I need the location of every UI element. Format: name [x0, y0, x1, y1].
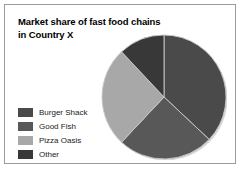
- legend-swatch-pizza-oasis: [18, 136, 33, 145]
- pie-chart-svg: [101, 34, 227, 160]
- legend-item-pizza-oasis[interactable]: Pizza Oasis: [18, 133, 102, 147]
- legend-swatch-other: [18, 150, 33, 159]
- pie-chart: [101, 34, 227, 160]
- chart-title-line-2: in Country X: [18, 29, 73, 40]
- chart-figure: Market share of fast food chains in Coun…: [0, 0, 241, 169]
- legend-label-burger-shack: Burger Shack: [39, 108, 87, 117]
- chart-title-line-1: Market share of fast food chains: [18, 16, 161, 27]
- legend-item-other[interactable]: Other: [18, 147, 102, 161]
- legend-item-good-fish[interactable]: Good Fish: [18, 119, 102, 133]
- legend-item-burger-shack[interactable]: Burger Shack: [18, 105, 102, 119]
- legend-label-pizza-oasis: Pizza Oasis: [39, 136, 81, 145]
- legend-label-other: Other: [39, 150, 59, 159]
- figure-frame: Market share of fast food chains in Coun…: [4, 4, 236, 164]
- legend-label-good-fish: Good Fish: [39, 122, 76, 131]
- chart-legend: Burger Shack Good Fish Pizza Oasis Other: [18, 105, 102, 161]
- legend-swatch-burger-shack: [18, 108, 33, 117]
- pie-slice-group: [102, 35, 226, 159]
- legend-swatch-good-fish: [18, 122, 33, 131]
